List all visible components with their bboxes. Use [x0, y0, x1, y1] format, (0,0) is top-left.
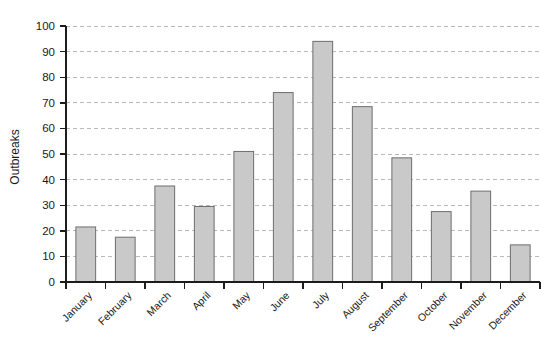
- y-axis-title: Outbreaks: [8, 129, 22, 184]
- bar: [234, 151, 254, 282]
- y-tick-label: 100: [36, 20, 55, 32]
- bar: [471, 191, 491, 282]
- bar: [194, 206, 214, 282]
- x-tick-label: April: [189, 289, 212, 312]
- x-tick-label: November: [446, 289, 489, 332]
- y-tick-label: 10: [42, 250, 55, 262]
- x-tick-label: September: [365, 289, 410, 334]
- x-tick-labels: JanuaryFebruaryMarchAprilMayJuneJulyAugu…: [59, 288, 529, 333]
- bar: [313, 41, 333, 282]
- bar: [155, 186, 175, 282]
- x-tick-label: July: [309, 288, 331, 310]
- x-tick-marks: [66, 282, 540, 289]
- y-tick-label: 30: [42, 199, 55, 211]
- y-tick-label: 60: [42, 122, 55, 134]
- bar: [273, 93, 293, 282]
- y-tick-label: 80: [42, 71, 55, 83]
- x-tick-label: June: [267, 289, 292, 314]
- bar: [352, 107, 372, 282]
- bar: [392, 158, 412, 282]
- x-tick-label: December: [486, 289, 529, 332]
- bar: [510, 245, 530, 282]
- y-tick-label: 50: [42, 148, 55, 160]
- x-tick-label: February: [95, 288, 134, 327]
- bar: [115, 237, 135, 282]
- chart-canvas: 0102030405060708090100 JanuaryFebruaryMa…: [0, 0, 556, 347]
- x-tick-label: March: [144, 289, 173, 318]
- y-tick-label: 90: [42, 46, 55, 58]
- y-tick-label: 20: [42, 225, 55, 237]
- x-tick-label: May: [230, 288, 253, 311]
- y-tick-label: 40: [42, 174, 55, 186]
- x-tick-label: January: [59, 288, 94, 323]
- bar-chart-figure: 0102030405060708090100 JanuaryFebruaryMa…: [0, 0, 556, 347]
- bar: [76, 227, 96, 282]
- x-tick-label: August: [339, 289, 371, 321]
- bar: [431, 212, 451, 282]
- y-tick-label: 70: [42, 97, 55, 109]
- x-tick-label: October: [415, 289, 450, 324]
- gridlines: [66, 26, 540, 282]
- y-tick-labels: 0102030405060708090100: [36, 20, 55, 288]
- y-tick-label: 0: [49, 276, 55, 288]
